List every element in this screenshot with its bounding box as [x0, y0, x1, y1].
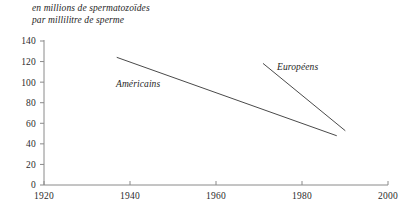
x-tick-label: 2000: [378, 191, 398, 201]
y-tick-label: 0: [31, 180, 36, 190]
series-line-européens: [263, 64, 345, 131]
y-axis: 020406080100120140: [21, 36, 44, 190]
y-tick-label: 120: [21, 57, 36, 67]
series-label-europeens: Européens: [277, 62, 318, 72]
chart-plot-area: 020406080100120140 19201940196019802000: [0, 0, 414, 224]
x-tick-label: 1980: [292, 191, 312, 201]
x-tick-label: 1920: [34, 191, 54, 201]
y-tick-label: 80: [26, 98, 36, 108]
y-tick-label: 20: [26, 160, 36, 170]
x-axis: 19201940196019802000: [34, 181, 398, 201]
y-tick-label: 140: [21, 36, 36, 46]
y-tick-label: 100: [21, 78, 36, 88]
x-tick-label: 1940: [120, 191, 140, 201]
y-tick-label: 40: [26, 139, 36, 149]
series-label-americains: Américains: [116, 79, 160, 89]
chart-figure: en millions de spermatozoïdes par millil…: [0, 0, 414, 224]
y-tick-label: 60: [26, 119, 36, 129]
x-tick-label: 1960: [206, 191, 226, 201]
